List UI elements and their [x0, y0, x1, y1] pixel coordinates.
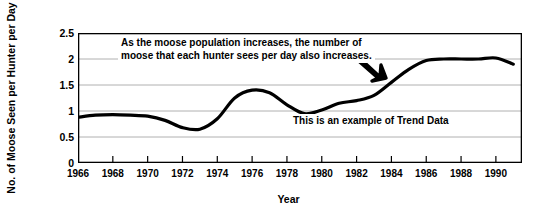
y-axis-tick-labels: 00.511.522.5: [28, 0, 74, 218]
x-tick-label: 1966: [67, 168, 89, 179]
y-tick-label: 2: [32, 54, 74, 65]
x-tick-label: 1990: [485, 168, 507, 179]
annotation-trend-data-caption: This is an example of Trend Data: [290, 114, 452, 129]
x-tick-label: 1984: [380, 168, 402, 179]
x-tick-label: 1976: [241, 168, 263, 179]
x-tick-label: 1980: [311, 168, 333, 179]
x-tick-label: 1970: [137, 168, 159, 179]
x-tick-label: 1974: [206, 168, 228, 179]
y-tick-label: 0.5: [32, 132, 74, 143]
x-tick-label: 1988: [450, 168, 472, 179]
x-tick-label: 1982: [345, 168, 367, 179]
x-tick-label: 1978: [276, 168, 298, 179]
y-axis-title-text: No. of Moose Seen per Hunter per Day: [5, 2, 17, 193]
x-axis-title: Year: [0, 193, 553, 205]
moose-trend-chart: No. of Moose Seen per Hunter per Day 00.…: [0, 0, 553, 218]
y-tick-label: 0: [32, 158, 74, 169]
y-tick-label: 1.5: [32, 80, 74, 91]
y-axis-title: No. of Moose Seen per Hunter per Day: [0, 0, 22, 195]
x-axis-title-text: Year: [277, 193, 299, 205]
y-tick-label: 1: [32, 106, 74, 117]
x-tick-label: 1968: [102, 168, 124, 179]
annotation-trend-explanation: As the moose population increases, the n…: [118, 36, 375, 63]
y-tick-label: 2.5: [32, 28, 74, 39]
x-tick-label: 1986: [415, 168, 437, 179]
x-tick-label: 1972: [171, 168, 193, 179]
